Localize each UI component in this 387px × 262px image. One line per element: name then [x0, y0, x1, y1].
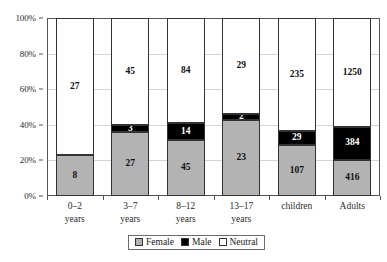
x-axis-label-line2: years [158, 213, 214, 226]
bar-segment-female[interactable]: 45 [167, 140, 205, 196]
bar-segment-neutral[interactable]: 27 [56, 18, 94, 155]
legend-item-male[interactable]: Male [181, 237, 212, 247]
y-tick-mark-80 [39, 53, 43, 54]
x-axis-label-line1: 3–7 [123, 201, 137, 211]
bar-group: 827 [47, 18, 103, 196]
segment-value-label: 3 [128, 125, 133, 132]
bar-segment-male[interactable]: 29 [278, 131, 316, 145]
segment-value-label: 14 [181, 127, 191, 137]
bar-segment-neutral[interactable]: 235 [278, 18, 316, 131]
segment-value-label: 235 [290, 70, 304, 80]
y-tick-mark-20 [39, 160, 43, 161]
bar-group: 4163841250 [325, 18, 381, 196]
segment-value-label: 384 [345, 138, 359, 148]
bars-layer: 8272734545148423229107292354163841250 [47, 18, 380, 196]
segment-value-label: 1250 [343, 68, 362, 78]
x-axis-label-line1: 13–17 [229, 201, 253, 211]
bar-segment-female[interactable]: 27 [111, 132, 149, 196]
segment-value-label: 45 [181, 163, 191, 173]
bar-segment-female[interactable]: 107 [278, 145, 316, 196]
bar-segment-male[interactable]: 2 [222, 114, 260, 121]
segment-value-label: 29 [237, 61, 247, 71]
bar-group: 27345 [103, 18, 159, 196]
bar-group: 10729235 [269, 18, 325, 196]
bar-segment-neutral[interactable]: 84 [167, 18, 205, 123]
x-axis-label-line2: years [214, 213, 270, 226]
x-axis-label: children [269, 200, 325, 213]
bar-stack[interactable]: 451484 [167, 18, 205, 196]
x-axis-label-line1: 8–12 [176, 201, 195, 211]
y-tick-mark-40 [39, 124, 43, 125]
segment-value-label: 416 [345, 173, 359, 183]
x-axis-label: 13–17years [214, 200, 270, 225]
legend-label: Female [146, 237, 174, 247]
segment-value-label: 2 [239, 114, 244, 121]
bar-stack[interactable]: 27345 [111, 18, 149, 196]
y-tick-label-100: 100% [15, 13, 36, 23]
bar-group: 23229 [214, 18, 270, 196]
x-axis-label: 8–12years [158, 200, 214, 225]
segment-value-label: 107 [290, 166, 304, 176]
x-axis-label-line2: years [47, 213, 103, 226]
y-tick-label-80: 80% [20, 49, 36, 59]
legend-item-female[interactable]: Female [135, 237, 174, 247]
bar-segment-female[interactable]: 23 [222, 120, 260, 196]
bar-stack[interactable]: 4163841250 [333, 18, 371, 196]
segment-value-label: 8 [72, 171, 77, 181]
segment-value-label: 45 [126, 67, 136, 77]
legend-item-neutral[interactable]: Neutral [219, 237, 259, 247]
legend-swatch-icon [135, 238, 143, 246]
x-axis-label: 3–7years [103, 200, 159, 225]
bar-segment-neutral[interactable]: 1250 [333, 18, 371, 127]
bar-stack[interactable]: 10729235 [278, 18, 316, 196]
segment-value-label: 29 [292, 133, 302, 143]
segment-value-label: 84 [181, 66, 191, 76]
x-axis-label: 0–2years [47, 200, 103, 225]
x-axis-label-line1: children [281, 201, 312, 211]
x-axis-label: Adults [325, 200, 381, 213]
y-tick-mark-0 [39, 196, 43, 197]
y-tick-label-20: 20% [20, 155, 36, 165]
x-axis-label-line1: Adults [340, 201, 365, 211]
bar-segment-female[interactable]: 8 [56, 155, 94, 196]
legend-swatch-icon [219, 238, 227, 246]
legend-swatch-icon [181, 238, 189, 246]
chart-legend: FemaleMaleNeutral [128, 235, 265, 250]
bar-segment-male[interactable]: 14 [167, 123, 205, 140]
y-axis: 100% 80% 60% 40% 20% 0% [0, 18, 43, 196]
y-tick-mark-60 [39, 89, 43, 90]
bar-segment-male[interactable]: 384 [333, 127, 371, 160]
x-tick-mark [380, 196, 381, 200]
y-tick-label-60: 60% [20, 84, 36, 94]
y-tick-mark-100 [39, 18, 43, 19]
x-axis: 0–2years3–7years8–12years13–17yearschild… [47, 200, 380, 230]
bar-group: 451484 [158, 18, 214, 196]
bar-stack[interactable]: 23229 [222, 18, 260, 196]
legend-label: Neutral [230, 237, 259, 247]
x-axis-label-line2: years [103, 213, 159, 226]
y-tick-label-40: 40% [20, 120, 36, 130]
segment-value-label: 23 [237, 153, 247, 163]
bar-segment-neutral[interactable]: 45 [111, 18, 149, 125]
x-axis-label-line1: 0–2 [68, 201, 82, 211]
y-tick-label-0: 0% [24, 191, 36, 201]
segment-value-label: 27 [126, 159, 136, 169]
segment-value-label: 27 [70, 82, 80, 92]
legend-label: Male [192, 237, 212, 247]
stacked-bar-chart: 100% 80% 60% 40% 20% 0% 8272734545148423… [0, 0, 387, 262]
bar-segment-female[interactable]: 416 [333, 160, 371, 196]
bar-segment-neutral[interactable]: 29 [222, 18, 260, 114]
bar-stack[interactable]: 827 [56, 18, 94, 196]
bar-segment-male[interactable]: 3 [111, 125, 149, 132]
